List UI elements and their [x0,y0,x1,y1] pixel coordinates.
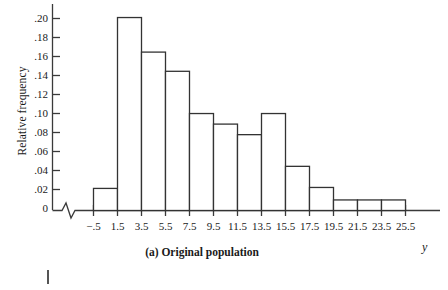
histogram-bar [238,135,262,211]
histogram-bar [142,52,166,210]
histogram-bar [310,187,334,210]
histogram-bar [382,200,406,211]
histogram-bar [262,114,286,211]
histogram-bar [286,166,310,210]
histogram-bars [94,18,406,211]
figure-caption: (a) Original population [0,246,404,258]
x-axis-title: y [422,240,427,255]
x-tick-label: 25.5 [391,221,421,232]
page-margin-mark [47,270,49,284]
histogram-figure: Relative frequency .20 .18 .16 .14 .12 .… [0,0,448,290]
histogram-bar [358,200,382,211]
histogram-bar [190,114,214,211]
histogram-bar [214,124,238,210]
histogram-bar [94,188,118,210]
histogram-bar [118,18,142,211]
histogram-bar [166,71,190,210]
histogram-bar [334,200,358,211]
